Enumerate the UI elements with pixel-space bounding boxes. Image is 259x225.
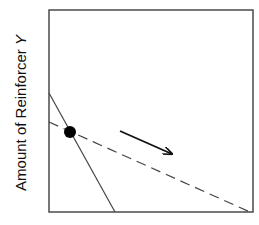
y-axis-label: Amount of Reinforcer Y: [12, 35, 29, 191]
plot-frame: [49, 10, 253, 212]
dashed-budget-line: [49, 122, 250, 212]
solid-budget-line: [49, 93, 115, 212]
y-axis-variable: Y: [12, 35, 29, 45]
budget-diagram: [0, 0, 259, 225]
shift-arrow-icon: [120, 131, 172, 154]
intersection-dot: [64, 126, 76, 138]
y-axis-label-text: Amount of Reinforcer: [12, 45, 29, 191]
